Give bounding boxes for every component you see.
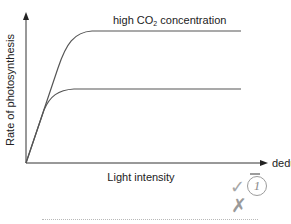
answer-dotted-line (42, 219, 258, 220)
mark-number-bar (250, 173, 260, 175)
curve-high-co2 (26, 31, 241, 163)
command-word-label: deduce (272, 157, 291, 169)
y-axis-label: Rate of photosynthesis (4, 34, 16, 146)
y-axis-arrow-icon (23, 12, 29, 20)
x-axis-arrow-icon (260, 160, 268, 166)
curve-label-high-co2: high CO2 concentration (113, 14, 226, 27)
mark-number-badge: 1 (247, 176, 267, 196)
cross-mark-icon: ✗ (231, 196, 247, 215)
x-axis-label: Light intensity (107, 171, 175, 183)
curve-low-co2 (26, 89, 241, 163)
